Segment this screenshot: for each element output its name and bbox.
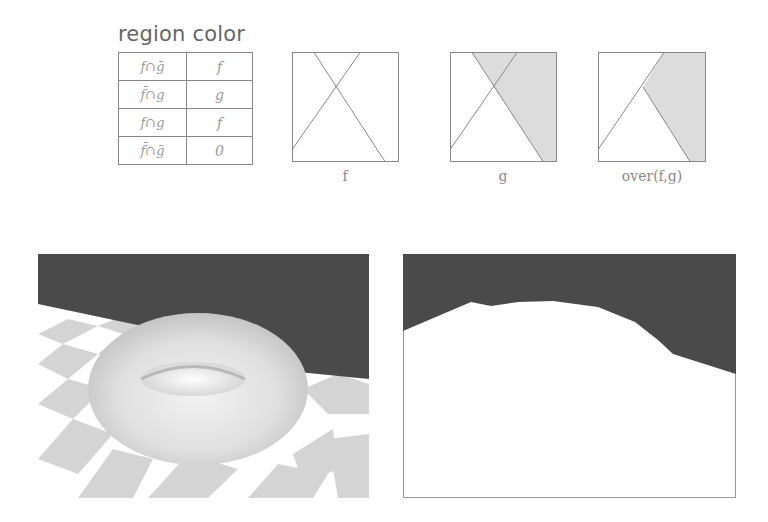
panel-over-diagram <box>598 52 706 162</box>
table-row: f̄∩g g <box>119 81 253 109</box>
panel-f-caption: f <box>285 168 405 184</box>
panel-g <box>450 52 557 162</box>
table-row: f∩ḡ f <box>119 53 253 81</box>
color-cell: 0 <box>187 137 253 165</box>
panel-g-diagram <box>450 52 557 162</box>
region-cell: f̄∩ḡ <box>119 137 187 165</box>
table-row: f∩g f <box>119 109 253 137</box>
color-cell: f <box>187 109 253 137</box>
color-cell: g <box>187 81 253 109</box>
table-row: f̄∩ḡ 0 <box>119 137 253 165</box>
panel-f-diagram <box>292 52 399 162</box>
panel-g-caption: g <box>443 168 563 184</box>
table-title: region color <box>118 22 245 46</box>
panel-f <box>292 52 399 162</box>
torus-render-image <box>38 254 369 498</box>
color-cell: f <box>187 53 253 81</box>
region-cell: f∩g <box>119 109 187 137</box>
region-cell: f̄∩g <box>119 81 187 109</box>
region-cell: f∩ḡ <box>119 53 187 81</box>
coverage-mask-image <box>403 254 736 498</box>
panel-over-caption: over(f,g) <box>592 168 712 184</box>
coverage-mask <box>403 254 736 498</box>
panel-over <box>598 52 706 162</box>
torus-scene <box>38 254 369 498</box>
region-color-table: f∩ḡ f f̄∩g g f∩g f f̄∩ḡ 0 <box>118 52 253 165</box>
